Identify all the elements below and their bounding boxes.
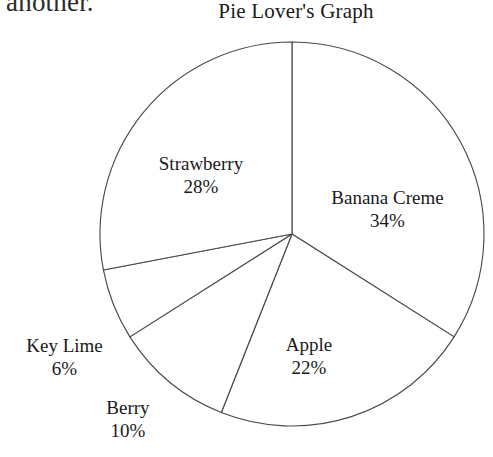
- slice-label-key-lime-name: Key Lime: [26, 335, 103, 356]
- slice-label-banana-creme: Banana Creme 34%: [305, 186, 470, 232]
- slice-label-banana-creme-name: Banana Creme: [331, 187, 443, 208]
- slice-label-strawberry-name: Strawberry: [159, 153, 243, 174]
- slice-label-apple-name: Apple: [286, 334, 332, 355]
- slice-label-apple-value: 22%: [254, 356, 364, 379]
- slice-label-berry: Berry 10%: [73, 396, 183, 442]
- slice-label-berry-name: Berry: [106, 397, 149, 418]
- slice-label-strawberry-value: 28%: [131, 175, 271, 198]
- chart-canvas: another. Pie Lover's Graph Strawberry 28…: [0, 0, 493, 457]
- slice-label-banana-creme-value: 34%: [305, 209, 470, 232]
- slice-label-key-lime-value: 6%: [2, 357, 127, 380]
- slice-label-apple: Apple 22%: [254, 333, 364, 379]
- slice-label-berry-value: 10%: [73, 419, 183, 442]
- slice-label-strawberry: Strawberry 28%: [131, 152, 271, 198]
- slice-label-key-lime: Key Lime 6%: [2, 334, 127, 380]
